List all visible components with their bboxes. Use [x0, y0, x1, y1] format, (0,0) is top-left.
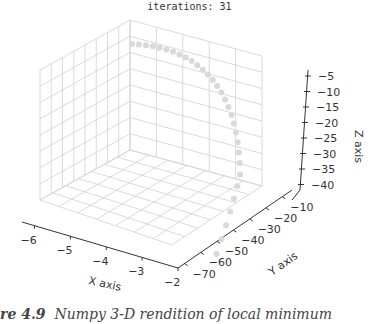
grid-line	[130, 85, 262, 121]
grid-line	[66, 186, 198, 228]
caption-text: Numpy 3-D rendition of local minimum	[54, 306, 332, 322]
3d-scatter-plot: −6−5−4−3−2X axis−70−60−50−40−30−20−10Y a…	[0, 0, 379, 305]
z-tick-label: −30	[313, 148, 336, 161]
z-axis-foot	[292, 190, 300, 200]
grid-line	[59, 155, 149, 206]
data-point	[228, 112, 234, 118]
data-point	[236, 149, 242, 155]
z-tick-label: −25	[314, 132, 337, 145]
data-point	[237, 171, 243, 177]
data-point	[176, 52, 182, 58]
x-axis-label: X axis	[87, 274, 122, 294]
data-point	[218, 90, 224, 96]
data-point	[223, 222, 229, 228]
x-tick-label: −6	[21, 234, 37, 247]
z-axis-line	[300, 70, 308, 190]
data-point	[136, 41, 142, 47]
data-point	[170, 49, 176, 55]
y-tick	[250, 219, 253, 221]
data-point	[157, 45, 163, 51]
x-tick-label: −5	[56, 244, 72, 257]
y-tick	[201, 252, 204, 254]
data-point	[143, 42, 149, 48]
data-point	[163, 47, 169, 53]
data-point	[237, 160, 243, 166]
grid-line	[130, 118, 262, 154]
z-tick-label: −20	[315, 117, 338, 130]
z-axis-label: Z axis	[352, 130, 365, 163]
y-tick-label: −50	[225, 245, 248, 258]
y-tick	[282, 197, 285, 199]
data-point	[225, 104, 231, 110]
x-tick-label: −2	[164, 276, 180, 289]
data-point	[183, 55, 189, 61]
z-tick-label: −15	[316, 101, 339, 114]
x-tick-label: −3	[128, 265, 144, 278]
grid-line	[134, 176, 224, 232]
y-tick	[185, 264, 188, 266]
data-point	[234, 183, 240, 189]
data-point	[205, 72, 211, 78]
grid-line	[40, 200, 172, 245]
data-point	[235, 139, 241, 145]
data-point	[194, 62, 200, 68]
data-point	[150, 43, 156, 49]
grid-line	[130, 150, 262, 186]
y-tick	[233, 230, 236, 232]
grid-line	[79, 179, 211, 220]
grid-line	[97, 165, 187, 219]
caption-prefix: re 4.9	[0, 306, 46, 322]
data-point	[222, 97, 228, 103]
grid-line	[130, 69, 262, 105]
data-point	[129, 41, 135, 47]
grid-line	[115, 171, 205, 226]
y-tick	[266, 208, 269, 210]
data-point	[214, 83, 220, 89]
data-point	[227, 209, 233, 215]
y-tick-label: −70	[193, 268, 216, 281]
grid-line	[53, 193, 185, 237]
data-point	[231, 121, 237, 127]
data-point	[210, 77, 216, 83]
grid-line	[130, 20, 262, 56]
data-point	[200, 67, 206, 73]
z-tick-label: −35	[312, 163, 335, 176]
y-tick-label: −30	[258, 223, 281, 236]
y-tick-label: −10	[290, 201, 313, 214]
data-point	[219, 236, 225, 242]
grid-line	[130, 101, 262, 137]
y-tick-label: −20	[274, 212, 297, 225]
grid-line	[130, 53, 262, 89]
y-axis-label: Y axis	[265, 249, 300, 279]
data-point	[231, 196, 237, 202]
y-tick-label: −40	[241, 234, 264, 247]
x-tick-label: −4	[92, 255, 108, 268]
data-point	[233, 130, 239, 136]
data-point	[213, 251, 219, 257]
figure-caption: re 4.9 Numpy 3-D rendition of local mini…	[0, 306, 332, 322]
y-tick-label: −60	[209, 256, 232, 269]
grid-line	[78, 160, 168, 213]
data-point	[189, 58, 195, 64]
z-tick-label: −40	[311, 179, 334, 192]
z-tick-label: −5	[318, 70, 334, 83]
grid-line	[91, 171, 223, 211]
z-tick-label: −10	[317, 86, 340, 99]
grid-line	[104, 164, 236, 203]
